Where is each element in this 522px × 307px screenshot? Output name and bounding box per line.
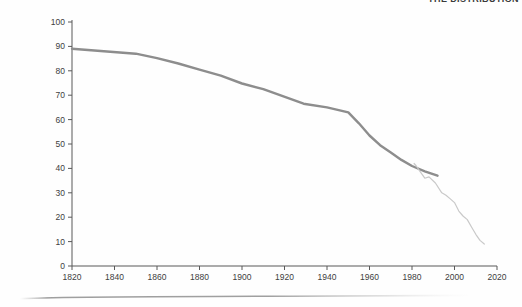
series-recent-survey-thin-line	[414, 164, 484, 245]
x-axis-tick-label: 1980	[403, 272, 422, 282]
y-axis-tick-label: 60	[56, 115, 66, 125]
page-scan-artifact-line	[20, 295, 472, 298]
data-series	[72, 49, 484, 244]
x-axis-tick-label: 1960	[360, 272, 379, 282]
y-axis-tick-label: 40	[56, 163, 66, 173]
y-axis-tick-label: 20	[56, 212, 66, 222]
x-axis-tick-label: 1920	[275, 272, 294, 282]
extreme-poverty-chart: Percentage of world population living in…	[0, 0, 522, 307]
x-axis-tick-label: 2020	[488, 272, 507, 282]
series-historical-estimates-thick-line	[72, 49, 438, 176]
axes: 0102030405060708090100182018401860188019…	[51, 17, 507, 282]
y-axis-tick-label: 90	[56, 41, 66, 51]
y-axis-tick-label: 70	[56, 90, 66, 100]
y-axis-tick-label: 50	[56, 139, 66, 149]
y-axis-tick-label: 80	[56, 66, 66, 76]
scanned-book-page: THE DISTRIBUTION Percentage of world pop…	[0, 0, 522, 307]
y-axis-tick-label: 30	[56, 188, 66, 198]
y-axis-tick-label: 0	[60, 261, 65, 271]
x-axis-tick-label: 1820	[63, 272, 82, 282]
x-axis-tick-label: 1860	[148, 272, 167, 282]
x-axis-tick-label: 2000	[445, 272, 464, 282]
y-axis-tick-label: 100	[51, 17, 65, 27]
x-axis-tick-label: 1880	[190, 272, 209, 282]
x-axis-tick-label: 1900	[233, 272, 252, 282]
x-axis-tick-label: 1840	[105, 272, 124, 282]
chart-canvas: 0102030405060708090100182018401860188019…	[0, 0, 522, 307]
y-axis-tick-label: 10	[56, 237, 66, 247]
x-axis-tick-label: 1940	[318, 272, 337, 282]
